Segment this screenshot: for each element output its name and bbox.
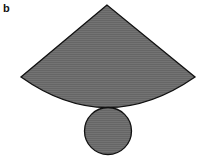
cone-net-diagram [0, 0, 206, 156]
sector-shape [21, 5, 195, 108]
base-circle-shape [85, 108, 132, 155]
